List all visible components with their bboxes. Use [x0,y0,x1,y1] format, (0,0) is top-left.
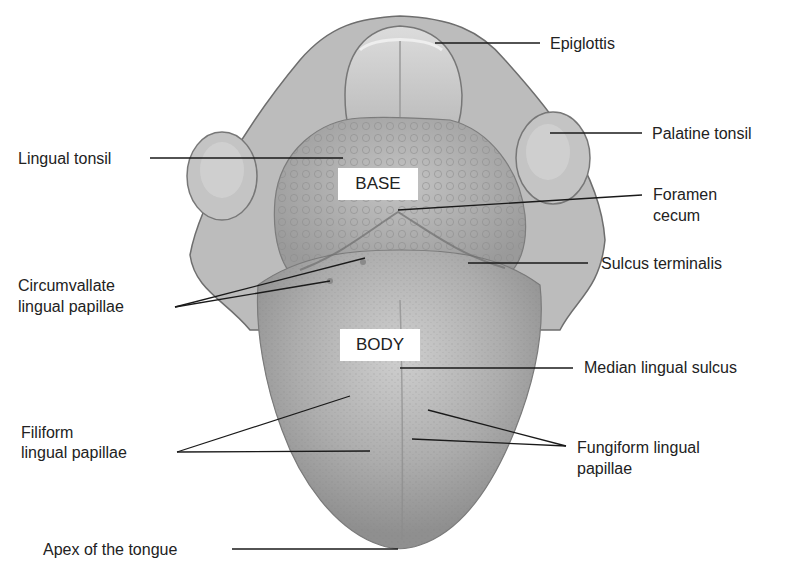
label-circumvallate-line1: Circumvallate [18,276,115,295]
tongue-anatomy-diagram: BASE BODY Epiglottis Palatine tonsil Lin… [0,0,797,570]
label-median-lingual-sulcus: Median lingual sulcus [584,358,737,377]
label-sulcus-terminalis: Sulcus terminalis [601,254,722,273]
label-apex: Apex of the tongue [43,540,177,559]
label-foramen-cecum-line1: Foramen [653,185,717,204]
label-filiform-line2: lingual papillae [21,443,127,462]
label-foramen-cecum-line2: cecum [653,206,700,225]
label-palatine-tonsil: Palatine tonsil [652,124,752,143]
region-label-body: BODY [340,329,420,361]
label-fungiform-line2: papillae [577,459,632,478]
label-filiform-line1: Filiform [21,423,73,442]
region-label-base: BASE [338,168,418,200]
label-fungiform-line1: Fungiform lingual [577,438,700,457]
label-lingual-tonsil: Lingual tonsil [18,149,111,168]
label-epiglottis: Epiglottis [550,34,615,53]
label-circumvallate-line2: lingual papillae [18,297,124,316]
tongue-illustration [0,0,797,570]
